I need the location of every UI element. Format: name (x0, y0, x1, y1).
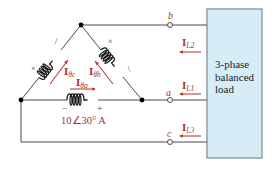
label-i-l3: IL3 (182, 121, 194, 135)
node-right (140, 98, 145, 103)
node-left (19, 98, 24, 103)
terminal-c-label: c (167, 128, 172, 139)
arrowhead-i-l2 (179, 50, 183, 54)
left-coil-x-mark: × (31, 64, 36, 73)
wire-left-diag-high (61, 25, 81, 50)
load-box-label: 3-phase balanced load (215, 58, 265, 96)
label-i-l1: IL1 (182, 79, 194, 93)
inductor-right-icon (97, 47, 119, 70)
label-i-l2: IL2 (182, 36, 194, 50)
arrowhead-i-theta-a (92, 87, 96, 91)
label-i-theta-c: Iθc (64, 65, 76, 79)
wire-right-diag-low (123, 77, 142, 100)
left-coil-tick-mark: / (55, 37, 58, 46)
terminal-a (168, 98, 173, 103)
arrowhead-i-l1 (179, 92, 183, 96)
inductor-bottom-icon (67, 94, 88, 105)
terminal-a-label: a (166, 87, 171, 98)
right-coil-tick-mark: \ (128, 65, 131, 74)
terminal-b (168, 23, 173, 28)
label-i-theta-a: Iθa (76, 76, 88, 90)
source-value: 10∠30° A (61, 115, 106, 126)
wire-right-diag-high (81, 25, 101, 50)
terminal-c (168, 140, 173, 145)
polarity-minus: − (62, 103, 68, 114)
load-box-line-2: balanced (215, 71, 265, 84)
polarity-plus: + (97, 103, 103, 114)
inductor-left-icon (35, 57, 57, 80)
arrowhead-i-theta-c (64, 60, 68, 64)
load-box-line-3: load (215, 83, 265, 96)
right-coil-x-mark: × (108, 37, 113, 46)
arrowhead-i-l3 (179, 134, 183, 138)
load-box-line-1: 3-phase (215, 58, 265, 71)
node-top (79, 23, 84, 28)
terminal-b-label: b (168, 10, 173, 21)
wire-left-diag-low (21, 78, 39, 101)
